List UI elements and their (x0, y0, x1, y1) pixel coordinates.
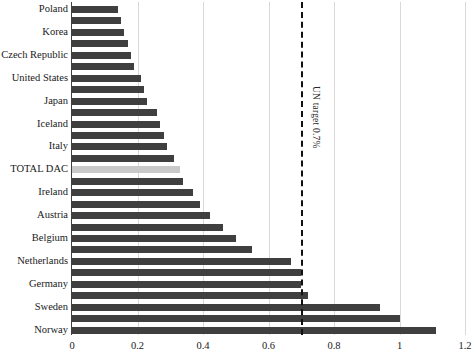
bar-row (72, 258, 291, 265)
bar (72, 292, 308, 299)
bar (72, 224, 223, 231)
bar-row (72, 29, 124, 36)
category-axis-labels: PolandKoreaCzech RepublicUnited StatesJa… (0, 0, 68, 359)
bar-row (72, 6, 118, 13)
category-label: Belgium (0, 233, 68, 243)
bar (72, 315, 400, 322)
bar-row (72, 121, 160, 128)
bar (72, 258, 291, 265)
category-label: Netherlands (0, 256, 68, 266)
bar (72, 132, 164, 139)
category-label: TOTAL DAC (0, 164, 68, 174)
category-label: Japan (0, 96, 68, 106)
bar-row (72, 98, 147, 105)
gridline (465, 2, 466, 335)
bar (72, 235, 236, 242)
bar-row (72, 201, 200, 208)
bar (72, 304, 380, 311)
bar (72, 189, 193, 196)
un-target-line (301, 2, 303, 335)
gridline (334, 2, 335, 335)
category-label: Norway (0, 325, 68, 335)
bar (72, 29, 124, 36)
bar-row (72, 235, 236, 242)
x-tick-label: 0.6 (262, 340, 275, 351)
bar (72, 98, 147, 105)
category-label: Sweden (0, 302, 68, 312)
bar-row (72, 155, 174, 162)
bar-row (72, 52, 131, 59)
x-tick-label: 1.2 (458, 340, 471, 351)
bar (72, 269, 301, 276)
category-label: Czech Republic (0, 50, 68, 60)
x-tick-label: 0.8 (327, 340, 340, 351)
category-label: Italy (0, 141, 68, 151)
x-tick-label: 0 (69, 340, 74, 351)
bar (72, 155, 174, 162)
x-tick-label: 0.2 (131, 340, 144, 351)
bar (72, 109, 157, 116)
bar (72, 201, 200, 208)
bar-row (72, 17, 121, 24)
bar (72, 17, 121, 24)
bar-row (72, 224, 223, 231)
bar-row (72, 166, 180, 173)
bar-row (72, 40, 128, 47)
bar-chart: PolandKoreaCzech RepublicUnited StatesJa… (0, 0, 475, 359)
bar (72, 212, 210, 219)
bar-row (72, 178, 183, 185)
bar-row (72, 109, 157, 116)
category-label: United States (0, 73, 68, 83)
bar (72, 40, 128, 47)
bar-row (72, 75, 141, 82)
bar-row (72, 315, 400, 322)
bar-row (72, 246, 252, 253)
bar-row (72, 327, 436, 334)
bar (72, 52, 131, 59)
bar-row (72, 304, 380, 311)
category-label: Ireland (0, 187, 68, 197)
category-label: Germany (0, 279, 68, 289)
bar (72, 143, 167, 150)
bar-row (72, 143, 167, 150)
bar-row (72, 132, 164, 139)
bar (72, 327, 436, 334)
bar (72, 75, 141, 82)
bar (72, 63, 134, 70)
bar (72, 86, 144, 93)
category-label: Austria (0, 210, 68, 220)
bar (72, 121, 160, 128)
gridline (400, 2, 401, 335)
bar (72, 246, 252, 253)
bar (72, 178, 183, 185)
bar-row (72, 86, 144, 93)
x-axis-labels: 00.20.40.60.811.2 (0, 340, 475, 356)
bar-row (72, 212, 210, 219)
bar-row (72, 292, 308, 299)
bar (72, 166, 180, 173)
bar-row (72, 281, 301, 288)
category-label: Iceland (0, 119, 68, 129)
un-target-label: UN target 0.7% (311, 86, 321, 149)
bar (72, 281, 301, 288)
bar-row (72, 63, 134, 70)
x-tick-label: 0.4 (196, 340, 209, 351)
bar-row (72, 269, 301, 276)
x-tick-label: 1 (397, 340, 402, 351)
bar-row (72, 189, 193, 196)
category-label: Korea (0, 27, 68, 37)
bar (72, 6, 118, 13)
category-label: Poland (0, 4, 68, 14)
